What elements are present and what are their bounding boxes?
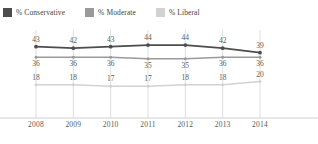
series-point-conservative <box>146 43 150 47</box>
data-label-conservative: 44 <box>144 33 152 42</box>
series-point-conservative <box>258 51 262 55</box>
data-label-liberal: 18 <box>182 73 190 82</box>
data-label-conservative: 42 <box>219 36 227 45</box>
data-label-liberal: 20 <box>256 70 264 79</box>
legend-item-liberal: % Liberal <box>156 8 200 17</box>
legend-label-liberal: % Liberal <box>169 8 200 17</box>
series-point-conservative <box>71 46 75 50</box>
data-label-conservative: 39 <box>256 41 264 50</box>
chart-legend: % Conservative % Moderate % Liberal <box>0 0 318 24</box>
series-point-conservative <box>34 45 38 49</box>
data-label-moderate: 36 <box>107 59 115 68</box>
series-point-liberal <box>109 85 112 88</box>
series-point-liberal <box>147 85 150 88</box>
series-point-liberal <box>184 83 187 86</box>
data-label-liberal: 18 <box>32 73 40 82</box>
x-axis-label: 2013 <box>215 120 231 129</box>
x-axis-label: 2014 <box>252 120 268 129</box>
x-axis-label: 2011 <box>140 120 156 129</box>
series-point-conservative <box>183 43 187 47</box>
x-axis-label: 2010 <box>103 120 119 129</box>
series-point-liberal <box>259 80 262 83</box>
data-label-moderate: 36 <box>219 59 227 68</box>
data-label-conservative: 43 <box>107 35 115 44</box>
legend-label-conservative: % Conservative <box>16 8 65 17</box>
data-label-moderate: 35 <box>144 61 152 70</box>
data-label-conservative: 44 <box>182 33 190 42</box>
data-label-moderate: 36 <box>32 59 40 68</box>
data-label-conservative: 42 <box>70 36 78 45</box>
x-axis-label: 2008 <box>28 120 44 129</box>
series-point-liberal <box>72 83 75 86</box>
series-point-liberal <box>221 83 224 86</box>
x-axis-label: 2009 <box>65 120 81 129</box>
data-label-liberal: 17 <box>107 74 115 83</box>
data-label-liberal: 18 <box>70 73 78 82</box>
legend-swatch-liberal <box>156 8 165 17</box>
series-point-conservative <box>109 45 113 49</box>
legend-swatch-conservative <box>3 8 12 17</box>
series-point-conservative <box>221 46 225 50</box>
legend-swatch-moderate <box>85 8 94 17</box>
data-label-moderate: 36 <box>70 59 78 68</box>
x-axis-label: 2012 <box>177 120 193 129</box>
data-label-moderate: 36 <box>256 59 264 68</box>
data-label-conservative: 43 <box>32 35 40 44</box>
x-axis-labels: 2008200920102011201220132014 <box>0 120 318 140</box>
legend-item-moderate: % Moderate <box>85 8 136 17</box>
data-label-liberal: 17 <box>144 74 152 83</box>
data-label-liberal: 18 <box>219 73 227 82</box>
series-point-liberal <box>35 83 38 86</box>
data-label-moderate: 35 <box>182 61 190 70</box>
legend-item-conservative: % Conservative <box>3 8 65 17</box>
legend-label-moderate: % Moderate <box>98 8 136 17</box>
